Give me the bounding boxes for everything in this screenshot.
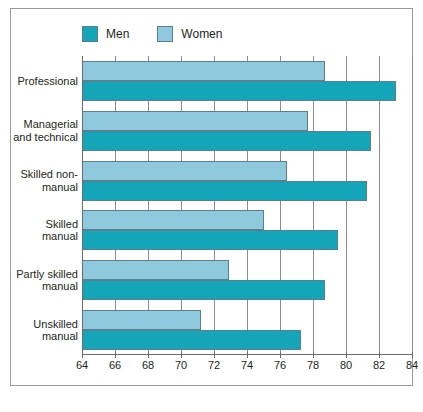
- legend-swatch-women: [157, 26, 173, 42]
- bar-men: [82, 330, 301, 350]
- legend-label-men: Men: [106, 27, 129, 41]
- bar-women: [82, 260, 229, 280]
- category-axis-labels: ProfessionalManagerialand technicalSkill…: [0, 56, 78, 355]
- x-tick-label-78: 78: [307, 359, 319, 371]
- category-label-0: Professional: [2, 75, 78, 88]
- plot-area: [82, 56, 412, 355]
- x-tick-mark-74: [247, 352, 248, 358]
- category-label-line: Skilled: [2, 218, 78, 231]
- x-tick-mark-64: [82, 352, 83, 358]
- chart-legend: MenWomen: [82, 24, 250, 44]
- x-tick-mark-70: [181, 352, 182, 358]
- category-label-line: manual: [2, 330, 78, 343]
- bar-women: [82, 310, 201, 330]
- x-tick-mark-68: [148, 352, 149, 358]
- x-tick-label-72: 72: [208, 359, 220, 371]
- category-label-line: manual: [2, 280, 78, 293]
- bar-men: [82, 81, 396, 101]
- x-tick-label-66: 66: [109, 359, 121, 371]
- bar-men: [82, 131, 371, 151]
- bar-group: [82, 206, 412, 256]
- x-tick-mark-80: [346, 352, 347, 358]
- bar-women: [82, 210, 264, 230]
- bar-group: [82, 305, 412, 355]
- category-label-line: Partly skilled: [2, 268, 78, 281]
- bar-women: [82, 161, 287, 181]
- category-label-line: Unskilled: [2, 318, 78, 331]
- bar-women: [82, 111, 308, 131]
- chart-figure: MenWomen ProfessionalManagerialand techn…: [0, 0, 423, 412]
- x-tick-label-74: 74: [241, 359, 253, 371]
- legend-entry-men: Men: [82, 26, 157, 42]
- bar-men: [82, 280, 325, 300]
- x-axis-ticks: 6466687072747678808284: [82, 358, 412, 374]
- x-tick-mark-72: [214, 352, 215, 358]
- figure-caption: [10, 395, 413, 409]
- x-tick-label-80: 80: [340, 359, 352, 371]
- category-label-line: and technical: [2, 131, 78, 144]
- bar-men: [82, 230, 338, 250]
- x-tick-mark-82: [379, 352, 380, 358]
- gridline-84: [412, 56, 413, 355]
- x-tick-label-76: 76: [274, 359, 286, 371]
- category-label-5: Unskilledmanual: [2, 318, 78, 343]
- legend-swatch-men: [82, 26, 98, 42]
- x-tick-mark-66: [115, 352, 116, 358]
- x-tick-mark-78: [313, 352, 314, 358]
- category-label-line: manual: [2, 181, 78, 194]
- legend-entry-women: Women: [157, 26, 250, 42]
- category-label-line: Skilled non-: [2, 168, 78, 181]
- x-tick-label-70: 70: [175, 359, 187, 371]
- x-tick-mark-76: [280, 352, 281, 358]
- x-tick-label-82: 82: [373, 359, 385, 371]
- bar-men: [82, 181, 367, 201]
- category-label-4: Partly skilledmanual: [2, 268, 78, 293]
- bar-women: [82, 61, 325, 81]
- bar-group: [82, 255, 412, 305]
- category-label-line: manual: [2, 230, 78, 243]
- category-label-2: Skilled non-manual: [2, 168, 78, 193]
- category-label-line: Managerial: [2, 118, 78, 131]
- bar-group: [82, 156, 412, 206]
- category-label-3: Skilledmanual: [2, 218, 78, 243]
- y-axis-line: [82, 56, 83, 355]
- category-label-1: Managerialand technical: [2, 118, 78, 143]
- bar-group: [82, 106, 412, 156]
- bar-group: [82, 56, 412, 106]
- category-label-line: Professional: [2, 75, 78, 88]
- x-tick-mark-84: [412, 352, 413, 358]
- legend-label-women: Women: [181, 27, 222, 41]
- x-tick-label-64: 64: [76, 359, 88, 371]
- x-tick-label-84: 84: [406, 359, 418, 371]
- x-tick-label-68: 68: [142, 359, 154, 371]
